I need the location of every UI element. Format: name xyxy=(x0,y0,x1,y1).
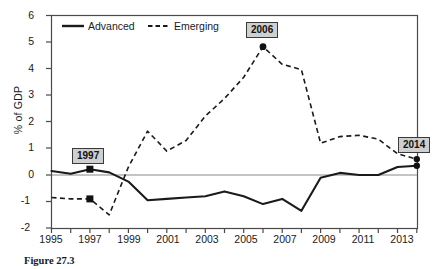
series-advanced-line xyxy=(52,166,417,211)
annotation-2006: 2006 xyxy=(246,22,278,38)
annotation-2014: 2014 xyxy=(398,137,430,153)
legend-label-emerging: Emerging xyxy=(174,20,219,32)
annotation-1997: 1997 xyxy=(72,148,104,164)
plot-frame xyxy=(52,16,418,229)
chart-figure: % of GDP 6 5 4 3 2 1 0 -1 -2 1995 1997 1… xyxy=(0,0,440,269)
legend-label-advanced: Advanced xyxy=(88,20,135,32)
series-emerging-line xyxy=(52,47,417,215)
plot-canvas xyxy=(0,0,440,269)
marker-emerging-1997 xyxy=(86,195,93,202)
marker-emerging-2014 xyxy=(414,156,420,162)
figure-caption: Figure 27.3 xyxy=(24,255,75,266)
marker-advanced-1997 xyxy=(86,166,93,173)
marker-emerging-2006 xyxy=(260,43,267,50)
marker-advanced-2014 xyxy=(414,163,420,169)
